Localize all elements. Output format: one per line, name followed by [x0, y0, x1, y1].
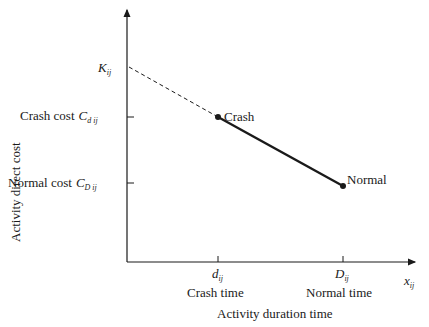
normal-time-symbol: Dij: [334, 266, 350, 283]
crash-point: [215, 114, 221, 120]
cost-duration-diagram: Crash Normal Kij Crash costCd ij Normal …: [0, 0, 429, 327]
cost-slope-line: [218, 117, 343, 186]
crash-time-symbol: dij: [212, 266, 224, 283]
crash-point-label: Crash: [224, 109, 255, 124]
dashed-extension-line: [129, 67, 218, 117]
normal-point: [340, 183, 346, 189]
normal-point-label: Normal: [347, 172, 387, 187]
x-axis-title: Activity duration time: [217, 306, 333, 321]
normal-time-label: Normal time: [306, 285, 372, 300]
y-axis-title: Activity direct cost: [8, 142, 23, 242]
crash-cost-label: Crash costCd ij: [20, 108, 98, 125]
k-label: Kij: [97, 60, 112, 77]
x-axis-symbol: xij: [403, 273, 415, 290]
crash-time-label: Crash time: [187, 285, 244, 300]
